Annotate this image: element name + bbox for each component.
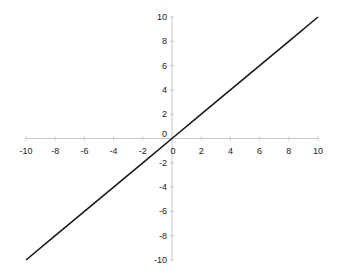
- y-tick-label: 2: [162, 109, 167, 119]
- y-tick-label: 8: [162, 36, 167, 46]
- y-tick-label: 4: [162, 85, 167, 95]
- y-tick-label: -10: [154, 255, 167, 265]
- x-tick-label: 0: [170, 146, 175, 156]
- y-tick-label: -8: [159, 231, 167, 241]
- x-tick-label: 8: [286, 146, 291, 156]
- x-tick-label: 10: [313, 146, 323, 156]
- y-tick-label: 0: [162, 129, 167, 139]
- x-tick-label: -4: [110, 146, 118, 156]
- line-chart: -10-8-6-4-20246810-10-8-6-4-20246810: [0, 0, 340, 280]
- x-tick-label: -6: [80, 146, 88, 156]
- x-tick-label: 4: [228, 146, 233, 156]
- x-tick-label: -10: [19, 146, 32, 156]
- y-tick-label: 6: [162, 61, 167, 71]
- y-tick-label: -6: [159, 206, 167, 216]
- x-tick-label: 2: [199, 146, 204, 156]
- y-tick-label: 10: [157, 12, 167, 22]
- x-tick-label: 6: [257, 146, 262, 156]
- x-tick-label: -2: [139, 146, 147, 156]
- y-tick-label: -4: [159, 182, 167, 192]
- y-tick-label: -2: [159, 158, 167, 168]
- x-tick-label: -8: [51, 146, 59, 156]
